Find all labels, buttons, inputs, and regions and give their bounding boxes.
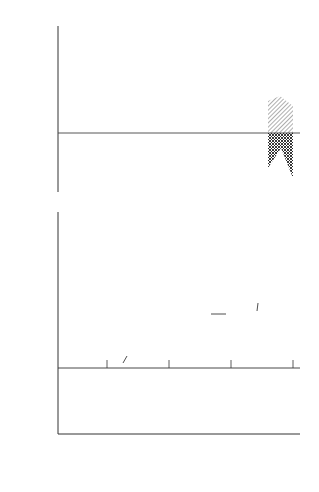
pm-leader <box>257 303 258 311</box>
hatched-surplus-area <box>268 96 293 133</box>
top-chart <box>58 26 300 192</box>
pe-pm-leader <box>123 356 127 363</box>
bottom-chart <box>58 212 300 434</box>
chart-figure <box>0 0 319 492</box>
hatched-financing-area <box>268 133 293 178</box>
